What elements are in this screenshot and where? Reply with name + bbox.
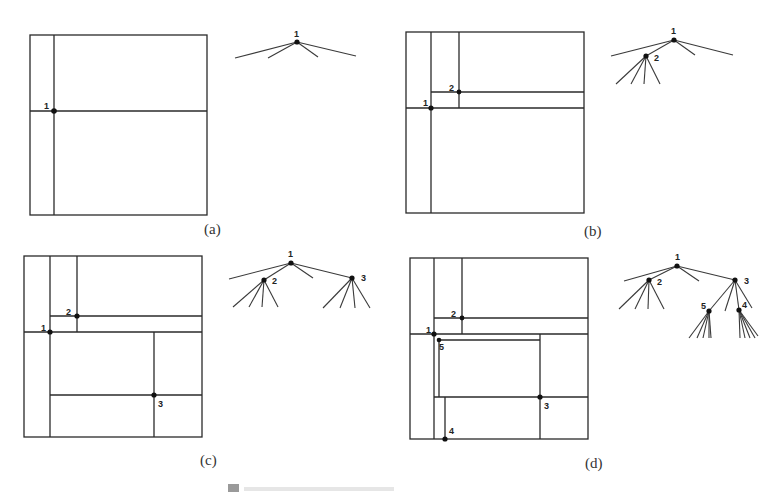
node-2-point — [74, 313, 79, 318]
panel-c-caption: (c) — [200, 452, 217, 469]
panel-b-partition: 1 2 — [406, 32, 584, 213]
tree-node-1 — [288, 260, 293, 265]
node-1-point — [431, 331, 436, 336]
panel-d-tree: 1 2 3 4 5 — [619, 252, 758, 338]
panel-a-tree: 1 — [235, 29, 356, 58]
node-4-point — [442, 436, 447, 441]
node-1-label: 1 — [41, 323, 46, 333]
tree-node-3 — [349, 275, 354, 280]
figure-canvas: 1 1 (a) 1 2 — [0, 0, 775, 492]
panel-c: 1 2 3 1 2 3 (c) — [24, 249, 370, 469]
tree-node-1-label: 1 — [671, 26, 676, 36]
tree-node-1 — [294, 39, 299, 44]
outer-rect — [30, 35, 207, 215]
panel-b-caption: (b) — [584, 223, 602, 240]
node-1-point — [47, 329, 52, 334]
tree-node-2-label: 2 — [272, 276, 277, 286]
tree-node-4 — [736, 307, 741, 312]
panel-c-partition: 1 2 3 — [24, 256, 202, 437]
node-3-point — [151, 392, 156, 397]
panel-d: 1 2 3 4 5 — [410, 252, 758, 472]
tree-node-1-label: 1 — [288, 249, 293, 259]
node-3-label: 3 — [544, 401, 549, 411]
tree-node-1 — [674, 263, 679, 268]
figure-caption-marker — [228, 484, 239, 492]
tree-node-2 — [646, 277, 651, 282]
node-3-point — [537, 394, 542, 399]
panel-d-caption: (d) — [585, 455, 603, 472]
node-2-label: 2 — [449, 83, 454, 93]
panel-b: 1 2 1 2 (b) — [406, 26, 733, 240]
tree-node-5 — [706, 308, 711, 313]
node-2-point — [460, 316, 465, 321]
tree-node-3-label: 3 — [361, 273, 366, 283]
tree-node-2-label: 2 — [657, 277, 662, 287]
node-5-label: 5 — [439, 342, 444, 352]
node-2-label: 2 — [451, 309, 456, 319]
node-1-label: 1 — [44, 101, 49, 111]
node-1-label: 1 — [426, 325, 431, 335]
node-3-label: 3 — [158, 399, 163, 409]
figure-caption-faded — [244, 487, 394, 491]
tree-node-4-label: 4 — [742, 300, 747, 310]
panel-a-partition: 1 — [30, 35, 207, 215]
node-2-point — [457, 90, 462, 95]
tree-node-3-label: 3 — [744, 276, 749, 286]
tree-node-3 — [732, 277, 737, 282]
tree-node-1 — [671, 37, 676, 42]
tree-node-1-label: 1 — [675, 252, 680, 262]
node-1-label: 1 — [423, 98, 428, 108]
tree-node-2-label: 2 — [654, 53, 659, 63]
panel-a-caption: (a) — [204, 221, 221, 238]
tree-node-1-label: 1 — [294, 29, 299, 39]
tree-node-2 — [261, 277, 266, 282]
panel-a: 1 1 (a) — [30, 29, 356, 238]
tree-node-2 — [643, 53, 648, 58]
tree-node-5-label: 5 — [701, 301, 706, 311]
panel-b-tree: 1 2 — [611, 26, 733, 84]
panel-d-partition: 1 2 3 4 5 — [410, 258, 588, 442]
panel-c-tree: 1 2 3 — [229, 249, 370, 308]
node-2-label: 2 — [66, 307, 71, 317]
node-4-label: 4 — [449, 426, 454, 436]
node-1-point — [51, 108, 57, 114]
node-1-point — [428, 105, 433, 110]
